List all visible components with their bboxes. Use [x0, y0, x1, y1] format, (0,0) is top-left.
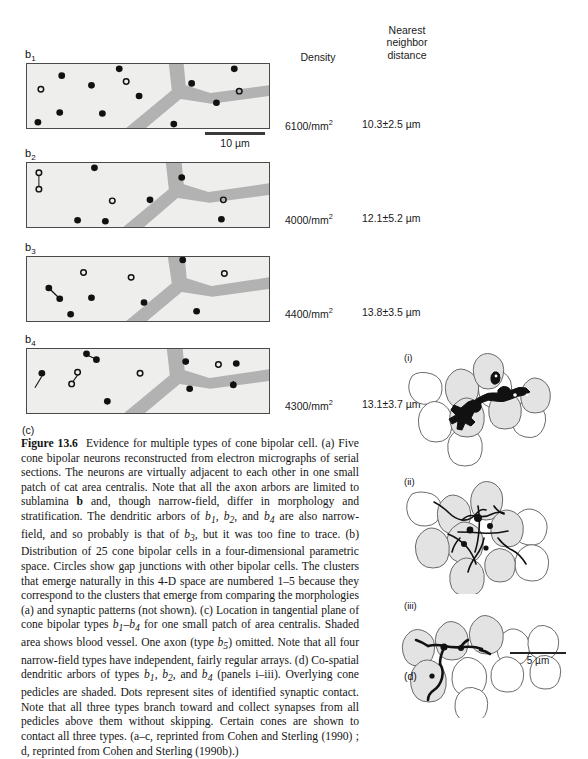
- nnd-header-line-3: distance: [387, 49, 426, 61]
- micrograph-panel-b2: [26, 162, 270, 228]
- panel-label-b3-sub: 3: [31, 247, 35, 256]
- nearest-neighbor-distance-column-header: Nearest neighbor distance: [361, 24, 453, 61]
- density-value-b1-exponent: 2: [329, 118, 333, 127]
- micrograph-b2-drawing: [27, 163, 269, 227]
- micrograph-b4-drawing: [27, 349, 269, 413]
- panel-label-b4-sub: 4: [31, 339, 35, 348]
- nnd-value-b3: 13.8±3.5 µm: [362, 306, 421, 318]
- density-column-header: Density: [285, 51, 351, 63]
- micrograph-panel-b4: [26, 348, 270, 414]
- subpanel-label-iii: (iii): [404, 600, 417, 611]
- nnd-header-line-1: Nearest: [389, 24, 426, 36]
- subpanel-label-ii: (ii): [404, 476, 415, 487]
- density-value-b2: 4000/mm2: [285, 212, 333, 226]
- figure-number: Figure 13.6: [21, 437, 78, 450]
- subpanel-i-drawing: [398, 352, 588, 470]
- subpanel-i: (i): [398, 352, 588, 470]
- density-value-b2-exponent: 2: [329, 212, 333, 221]
- scale-bar-5um: 5 µm: [510, 652, 566, 666]
- scale-bar-10um-line: [205, 132, 265, 135]
- panel-label-b3: b3: [25, 241, 36, 256]
- panel-label-b2-sub: 2: [31, 153, 35, 162]
- table-column-headers: Density Nearest neighbor distance: [285, 24, 465, 76]
- scale-bar-10um-label: 10 µm: [205, 137, 265, 149]
- panel-label-b1-sub: 1: [31, 54, 35, 63]
- micrograph-panel-b1: [26, 63, 270, 129]
- density-value-b3-exponent: 2: [329, 306, 333, 315]
- subpanel-label-d: (d): [404, 670, 417, 682]
- micrograph-b1-drawing: [27, 64, 269, 128]
- density-value-b4-text: 4300/mm: [285, 400, 329, 412]
- panel-label-b1: b1: [25, 48, 36, 63]
- density-value-b3-text: 4400/mm: [285, 308, 329, 320]
- density-value-b4: 4300/mm2: [285, 398, 333, 412]
- nnd-header-line-2: neighbor: [387, 36, 428, 48]
- density-value-b1-text: 6100/mm: [285, 120, 329, 132]
- panel-label-b2: b2: [25, 147, 36, 162]
- subpanel-ii: (ii): [398, 476, 588, 594]
- scale-bar-10um: 10 µm: [205, 132, 265, 149]
- nnd-value-b2: 12.1±5.2 µm: [362, 212, 421, 224]
- subpanel-label-c: (c): [22, 424, 34, 436]
- nnd-value-b1: 10.3±2.5 µm: [362, 118, 421, 130]
- figure-caption: Figure 13.6 Evidence for multiple types …: [21, 437, 359, 759]
- scale-bar-5um-label: 5 µm: [510, 655, 566, 666]
- density-value-b4-exponent: 2: [329, 398, 333, 407]
- panel-d-group: (i): [398, 352, 588, 736]
- panel-label-b4: b4: [25, 333, 36, 348]
- density-value-b1: 6100/mm2: [285, 118, 333, 132]
- density-value-b3: 4400/mm2: [285, 306, 333, 320]
- subpanel-ii-drawing: [398, 476, 588, 594]
- density-value-b2-text: 4000/mm: [285, 214, 329, 226]
- scale-bar-5um-line: [510, 652, 566, 654]
- figure-caption-text: Evidence for multiple types of cone bipo…: [21, 437, 359, 758]
- subpanel-label-i: (i): [404, 352, 412, 363]
- micrograph-b3-drawing: [27, 257, 269, 321]
- micrograph-panel-b3: [26, 256, 270, 322]
